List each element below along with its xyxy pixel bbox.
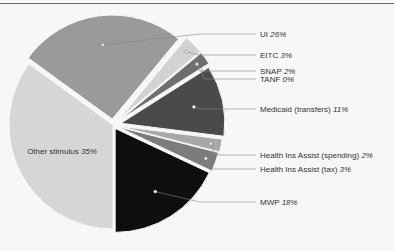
label-hia_tax: Health Ins Assist (tax) 3% — [260, 165, 351, 174]
label-tanf: TANF 0% — [260, 75, 294, 84]
label-hia_spend: Health Ins Assist (spending) 2% — [260, 151, 373, 160]
label-mwp: MWP 18% — [260, 198, 298, 207]
marker-eitc — [185, 50, 188, 53]
label-ui: UI 26% — [260, 30, 286, 39]
pie-chart: UI 26%EITC 3%SNAP 2%TANF 0%Medicaid (tra… — [0, 0, 394, 251]
label-eitc: EITC 3% — [260, 51, 292, 60]
marker-ui — [101, 43, 104, 46]
marker-snap — [195, 63, 198, 66]
marker-hia_spend — [209, 142, 212, 145]
label-medicaid: Medicaid (transfers) 11% — [260, 105, 348, 114]
marker-tanf — [199, 68, 202, 71]
marker-mwp — [154, 190, 157, 193]
pie-slices — [9, 15, 225, 232]
marker-medicaid — [192, 105, 195, 108]
label-other: Other stimulus 35% — [27, 147, 97, 156]
marker-hia_tax — [204, 157, 207, 160]
